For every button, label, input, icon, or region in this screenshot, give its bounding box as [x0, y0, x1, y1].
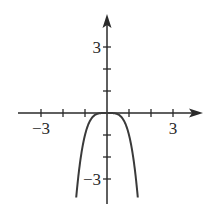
axes	[18, 14, 203, 204]
y-tick-label: 3	[93, 38, 102, 57]
y-tick-label: −3	[83, 170, 101, 189]
x-tick-label: 3	[169, 119, 178, 138]
function-graph: −333−3	[0, 0, 213, 218]
x-tick-label: −3	[32, 119, 50, 138]
